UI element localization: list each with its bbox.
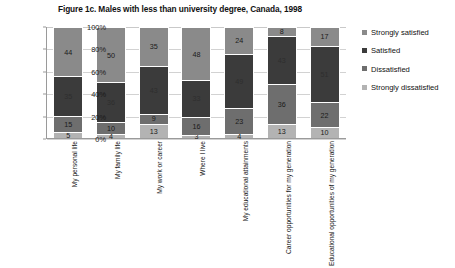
legend-swatch-icon bbox=[362, 30, 367, 35]
bar-value-label: 13 bbox=[278, 128, 286, 135]
bar-segment[interactable]: 35 bbox=[139, 27, 169, 66]
y-axis-tick-label: 20% bbox=[66, 112, 106, 121]
bar-value-label: 49 bbox=[235, 78, 243, 85]
bar-value-label: 17 bbox=[321, 33, 329, 40]
legend-swatch-icon bbox=[362, 48, 367, 53]
bar-segment[interactable]: 10 bbox=[310, 127, 340, 138]
x-axis-category-label: My family life bbox=[114, 141, 122, 266]
bar-column[interactable]: 4103650 bbox=[96, 27, 126, 138]
x-axis-category-label: Where I live bbox=[199, 141, 207, 266]
bar-value-label: 36 bbox=[278, 101, 286, 108]
bar-segment[interactable]: 36 bbox=[267, 84, 297, 124]
bar-segment[interactable]: 23 bbox=[224, 108, 254, 134]
bar-value-label: 9 bbox=[152, 115, 156, 122]
y-axis-tick-mark bbox=[43, 139, 46, 140]
bar-segment[interactable]: 8 bbox=[267, 27, 297, 36]
bar-value-label: 23 bbox=[235, 118, 243, 125]
plot-area: 5153544410365013943353163348423492413364… bbox=[46, 27, 346, 139]
legend-swatch-icon bbox=[362, 66, 367, 71]
bar-value-label: 35 bbox=[150, 43, 158, 50]
bar-value-label: 48 bbox=[192, 51, 200, 58]
legend-item[interactable]: Strongly dissatisfied bbox=[362, 83, 454, 92]
plot-area-wrapper: 5153544410365013943353163348423492413364… bbox=[46, 27, 346, 139]
legend-item[interactable]: Dissatisfied bbox=[362, 65, 454, 74]
x-axis-category-labels: My personal lifeMy family lifeMy work or… bbox=[46, 141, 346, 266]
bar-column[interactable]: 4234924 bbox=[224, 27, 254, 138]
bar-segment[interactable]: 24 bbox=[224, 27, 254, 54]
bar-column[interactable]: 10225117 bbox=[310, 27, 340, 138]
chart-title: Figure 1c. Males with less than universi… bbox=[0, 4, 360, 14]
y-axis-tick-mark bbox=[43, 71, 46, 72]
bar-segment[interactable]: 3 bbox=[181, 135, 211, 138]
chart-container: Figure 1c. Males with less than universi… bbox=[0, 0, 455, 268]
legend-label: Dissatisfied bbox=[371, 65, 410, 74]
legend-swatch-icon bbox=[362, 85, 367, 90]
x-axis-category-label: My educational attainments bbox=[242, 141, 250, 266]
bar-value-label: 24 bbox=[235, 37, 243, 44]
bar-segment[interactable]: 13 bbox=[267, 124, 297, 138]
bar-segment[interactable]: 48 bbox=[181, 27, 211, 80]
bar-value-label: 22 bbox=[321, 112, 329, 119]
bar-value-label: 36 bbox=[107, 99, 115, 106]
legend-label: Satisfied bbox=[371, 46, 400, 55]
legend-label: Strongly dissatisfied bbox=[371, 83, 439, 92]
bar-segment[interactable]: 22 bbox=[310, 102, 340, 126]
bar-segment[interactable]: 13 bbox=[139, 124, 169, 138]
y-axis-tick-label: 100% bbox=[66, 23, 106, 32]
x-axis-category-label: My personal life bbox=[71, 141, 79, 266]
y-axis-tick-mark bbox=[43, 116, 46, 117]
bar-segment[interactable]: 9 bbox=[139, 114, 169, 124]
y-axis-tick-label: 40% bbox=[66, 90, 106, 99]
x-axis-category-label: Career opportunities for my generation bbox=[285, 141, 293, 266]
bar-value-label: 43 bbox=[278, 57, 286, 64]
y-axis-tick-label: 60% bbox=[66, 67, 106, 76]
bar-segment[interactable]: 43 bbox=[267, 36, 297, 84]
bar-value-label: 51 bbox=[321, 71, 329, 78]
bar-group: 5153544410365013943353163348423492413364… bbox=[47, 27, 346, 138]
bar-segment[interactable]: 43 bbox=[139, 66, 169, 114]
bar-value-label: 43 bbox=[150, 87, 158, 94]
x-axis-category-label: Educational opportunities of my generati… bbox=[328, 141, 336, 266]
bar-value-label: 50 bbox=[107, 52, 115, 59]
bar-value-label: 8 bbox=[280, 28, 284, 35]
bar-segment[interactable]: 49 bbox=[224, 54, 254, 108]
x-axis-category-label: My work or career bbox=[156, 141, 164, 266]
legend-label: Strongly satisfied bbox=[371, 28, 429, 37]
y-axis-tick-mark bbox=[43, 94, 46, 95]
bar-value-label: 15 bbox=[64, 121, 72, 128]
bar-value-label: 33 bbox=[192, 95, 200, 102]
legend-item[interactable]: Satisfied bbox=[362, 46, 454, 55]
bar-value-label: 10 bbox=[107, 125, 115, 132]
bar-column[interactable]: 1394335 bbox=[139, 27, 169, 138]
legend-item[interactable]: Strongly satisfied bbox=[362, 28, 454, 37]
bar-segment[interactable]: 17 bbox=[310, 27, 340, 46]
bar-value-label: 13 bbox=[150, 128, 158, 135]
bar-column[interactable]: 1336438 bbox=[267, 27, 297, 138]
bar-segment[interactable]: 33 bbox=[181, 80, 211, 117]
y-axis-tick-label: 80% bbox=[66, 45, 106, 54]
bar-value-label: 10 bbox=[321, 129, 329, 136]
y-axis-tick-mark bbox=[43, 27, 46, 28]
bar-column[interactable]: 3163348 bbox=[181, 27, 211, 138]
bar-segment[interactable]: 4 bbox=[224, 134, 254, 138]
y-axis-tick-mark bbox=[43, 49, 46, 50]
bar-segment[interactable]: 10 bbox=[96, 122, 126, 133]
chart-legend: Strongly satisfiedSatisfiedDissatisfiedS… bbox=[362, 28, 454, 102]
bar-segment[interactable]: 51 bbox=[310, 46, 340, 103]
bar-value-label: 16 bbox=[192, 123, 200, 130]
bar-segment[interactable]: 16 bbox=[181, 117, 211, 135]
bar-column[interactable]: 5153544 bbox=[53, 27, 83, 138]
